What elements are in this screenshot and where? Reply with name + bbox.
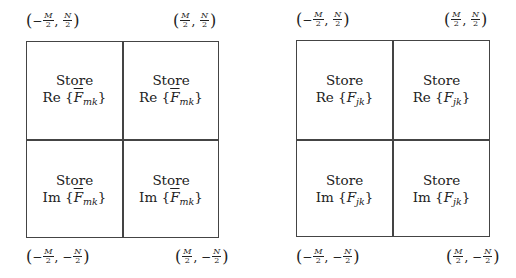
cell-store-label: Store	[423, 72, 460, 89]
right-corner-label-top-right: (M2, N2)	[444, 10, 487, 29]
cell-expression: Re {Fjk}	[413, 89, 471, 110]
right-grid-horizontal-divider	[296, 139, 490, 141]
cell-expression: Re {Fmk}	[43, 89, 107, 110]
left-cell-bottom-right: Store Im {Fmk}	[123, 172, 219, 210]
left-corner-label-top-left: (−M2, N2)	[26, 11, 79, 30]
left-grid-horizontal-divider	[26, 139, 219, 141]
cell-store-label: Store	[152, 72, 189, 89]
cell-expression: Re {Fjk}	[316, 89, 374, 110]
left-corner-label-bottom-right: (M2, −N2)	[175, 247, 228, 266]
cell-store-label: Store	[326, 172, 363, 189]
cell-store-label: Store	[152, 172, 189, 189]
cell-expression: Im {Fjk}	[316, 189, 374, 210]
right-cell-top-left: Store Re {Fjk}	[296, 72, 393, 110]
right-corner-label-top-left: (−M2, N2)	[296, 10, 349, 29]
left-corner-label-top-right: (M2, N2)	[173, 11, 216, 30]
cell-store-label: Store	[56, 72, 93, 89]
cell-store-label: Store	[56, 172, 93, 189]
right-cell-bottom-right: Store Im {Fjk}	[393, 172, 490, 210]
cell-store-label: Store	[326, 72, 363, 89]
right-corner-label-bottom-left: (−M2, −N2)	[296, 247, 359, 266]
left-cell-bottom-left: Store Im {Fmk}	[26, 172, 123, 210]
cell-expression: Im {Fmk}	[139, 189, 203, 210]
right-cell-top-right: Store Re {Fjk}	[393, 72, 490, 110]
right-cell-bottom-left: Store Im {Fjk}	[296, 172, 393, 210]
left-corner-label-bottom-left: (−M2, −N2)	[26, 247, 89, 266]
cell-expression: Im {Fmk}	[43, 189, 107, 210]
cell-expression: Re {Fmk}	[139, 89, 203, 110]
cell-expression: Im {Fjk}	[413, 189, 471, 210]
left-cell-top-right: Store Re {Fmk}	[123, 72, 219, 110]
cell-store-label: Store	[423, 172, 460, 189]
right-corner-label-bottom-right: (M2, −N2)	[446, 247, 499, 266]
left-cell-top-left: Store Re {Fmk}	[26, 72, 123, 110]
